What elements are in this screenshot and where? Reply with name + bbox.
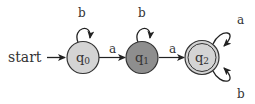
edge-q1-q2-label: a xyxy=(169,42,176,56)
start-label: start xyxy=(8,49,42,65)
loop-q1-b xyxy=(137,28,150,42)
edge-q0-q1-label: a xyxy=(109,42,116,56)
state-q1: q1 xyxy=(126,42,158,74)
loop-q0-b xyxy=(77,28,90,42)
state-q0: q0 xyxy=(67,42,99,74)
loop-q0-b-label: b xyxy=(78,6,86,20)
loop-q2-b xyxy=(213,68,230,81)
loop-q2-b-label: b xyxy=(237,87,245,101)
state-q2-accepting: q2 xyxy=(185,41,219,75)
loop-q2-a xyxy=(213,33,230,46)
loop-q2-a-label: a xyxy=(237,13,244,27)
loop-q1-b-label: b xyxy=(138,6,146,20)
automaton-diagram: start b a b a a b q0 q1 q2 xyxy=(0,0,255,104)
